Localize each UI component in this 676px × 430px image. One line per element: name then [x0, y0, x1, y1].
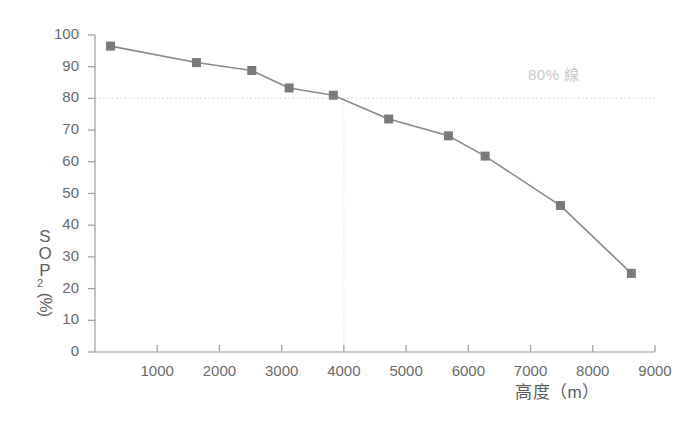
data-point-marker	[192, 58, 201, 67]
x-tick-label: 4000	[314, 362, 374, 379]
x-tick-label: 6000	[438, 362, 498, 379]
data-point-marker	[247, 66, 256, 75]
x-tick-label: 9000	[625, 362, 676, 379]
y-axis-ticks	[88, 35, 95, 352]
x-tick-label: 1000	[127, 362, 187, 379]
y-tick-label: 100	[39, 25, 79, 42]
y-tick-label: 20	[39, 279, 79, 296]
data-point-marker	[384, 115, 393, 124]
x-tick-label: 3000	[252, 362, 312, 379]
y-tick-label: 90	[39, 57, 79, 74]
y-tick-label: 50	[39, 184, 79, 201]
x-axis-ticks	[157, 345, 655, 352]
x-tick-label: 5000	[376, 362, 436, 379]
data-point-marker	[329, 91, 338, 100]
y-axis-title-char-p: P	[28, 262, 62, 279]
x-tick-label: 8000	[563, 362, 623, 379]
y-tick-label: 70	[39, 120, 79, 137]
data-point-marker	[627, 269, 636, 278]
y-axis-title: S O P 2 (%)	[28, 228, 62, 313]
y-tick-label: 80	[39, 88, 79, 105]
data-point-marker	[285, 83, 294, 92]
data-point-marker	[106, 42, 115, 51]
threshold-annotation-label: 80% 線	[528, 63, 580, 84]
x-axis-title: 高度（m）	[515, 378, 600, 403]
y-tick-label: 0	[39, 342, 79, 359]
data-point-marker	[444, 131, 453, 140]
data-point-marker	[481, 152, 490, 161]
x-tick-label: 7000	[501, 362, 561, 379]
y-tick-label: 10	[39, 310, 79, 327]
y-tick-label: 40	[39, 215, 79, 232]
y-tick-label: 30	[39, 247, 79, 264]
data-point-marker	[556, 201, 565, 210]
y-tick-label: 60	[39, 152, 79, 169]
x-tick-label: 2000	[189, 362, 249, 379]
